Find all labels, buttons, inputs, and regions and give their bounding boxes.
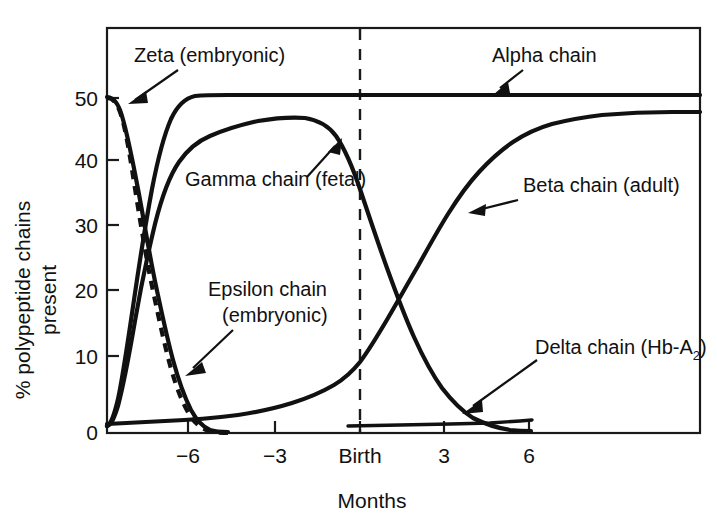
- annotation-zeta-arrowhead: [128, 91, 148, 104]
- x-tick-label-minus6: −6: [176, 444, 200, 467]
- annotation-beta: Beta chain (adult): [468, 174, 680, 216]
- y-axis-title-line2: present: [37, 265, 60, 335]
- chart-svg: 50 40 30 20 10 0 % polypeptide chains pr…: [0, 0, 717, 524]
- annotation-epsilon-label-line1: Epsilon chain: [208, 278, 327, 300]
- annotation-alpha-arrowhead: [493, 82, 510, 95]
- curve-beta-chain: [107, 112, 700, 424]
- x-axis-tick-labels: −6 −3 Birth 3 6: [176, 444, 535, 467]
- data-curves: [107, 95, 700, 433]
- y-axis-ticks: [107, 98, 119, 356]
- annotation-alpha: Alpha chain: [492, 44, 597, 95]
- annotation-beta-arrowhead: [468, 204, 486, 216]
- y-tick-label-50: 50: [75, 87, 98, 110]
- annotation-epsilon-leader: [193, 330, 233, 368]
- y-axis-title-line1: % polypeptide chains: [11, 201, 34, 399]
- annotation-delta-label-tail: ): [700, 336, 707, 358]
- x-tick-label-birth: Birth: [338, 444, 381, 467]
- annotation-gamma-label: Gamma chain (fetal): [185, 168, 366, 190]
- annotation-zeta-label: Zeta (embryonic): [134, 44, 285, 66]
- y-tick-label-40: 40: [75, 149, 98, 172]
- y-tick-label-30: 30: [75, 214, 98, 237]
- annotation-delta-label: Delta chain (Hb-A2): [535, 336, 707, 363]
- annotation-alpha-label: Alpha chain: [492, 44, 597, 66]
- annotation-epsilon: Epsilon chain (embryonic): [185, 278, 328, 376]
- curve-delta-chain: [348, 420, 532, 426]
- annotation-epsilon-label-line2: (embryonic): [222, 304, 328, 326]
- x-axis-title: Months: [338, 489, 407, 512]
- y-axis-tick-labels: 50 40 30 20 10 0: [75, 87, 98, 444]
- hemoglobin-chain-switching-figure: 50 40 30 20 10 0 % polypeptide chains pr…: [0, 0, 717, 524]
- annotation-epsilon-arrowhead: [185, 362, 206, 376]
- annotation-delta: Delta chain (Hb-A2): [462, 336, 707, 414]
- y-tick-label-0: 0: [86, 421, 98, 444]
- annotation-gamma-arrowhead: [328, 138, 342, 155]
- annotation-delta-leader: [473, 360, 537, 406]
- y-axis-title: % polypeptide chains present: [11, 201, 60, 399]
- x-tick-label-6: 6: [523, 444, 535, 467]
- annotation-beta-label: Beta chain (adult): [523, 174, 680, 196]
- annotation-delta-label-subscript: 2: [693, 348, 700, 363]
- annotation-delta-label-main: Delta chain (Hb-A: [535, 336, 694, 358]
- y-tick-label-20: 20: [75, 279, 98, 302]
- x-tick-label-minus3: −3: [263, 444, 287, 467]
- annotation-gamma: Gamma chain (fetal): [185, 138, 366, 190]
- annotation-alpha-leader: [500, 70, 523, 88]
- x-tick-label-3: 3: [438, 444, 450, 467]
- y-tick-label-10: 10: [75, 345, 98, 368]
- annotation-delta-arrowhead: [462, 400, 483, 414]
